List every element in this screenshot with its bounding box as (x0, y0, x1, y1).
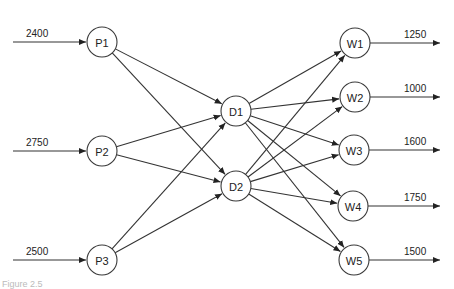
node-w2: W2 (340, 82, 370, 112)
demand-label-w1: 1250 (404, 29, 427, 40)
node-label: W4 (345, 201, 362, 213)
node-label: W2 (347, 92, 364, 104)
edge-p2-d2 (117, 155, 221, 182)
supply-label-p3: 2500 (26, 246, 49, 257)
node-w1: W1 (340, 28, 370, 58)
nodes: P1P2P3D1D2W1W2W3W4W5 (87, 27, 370, 275)
supply-label-p2: 2750 (26, 137, 49, 148)
demand-label-w5: 1500 (404, 246, 427, 257)
supply-demand-arrows: 24002750250012501000160017501500 (13, 28, 440, 260)
edge-d1-w2 (251, 99, 339, 109)
node-label: P2 (95, 146, 108, 158)
node-label: W3 (346, 145, 363, 157)
node-label: D2 (229, 181, 243, 193)
node-label: P1 (95, 37, 108, 49)
edge-p1-d1 (115, 49, 221, 104)
node-p2: P2 (87, 136, 117, 166)
node-d2: D2 (221, 171, 251, 201)
node-label: W1 (347, 38, 364, 50)
edge-p3-d1 (112, 123, 225, 249)
node-w3: W3 (339, 135, 369, 165)
node-d1: D1 (221, 96, 251, 126)
node-p1: P1 (87, 27, 117, 57)
edge-d1-w1 (249, 51, 341, 104)
edge-p3-d2 (115, 194, 222, 253)
demand-label-w4: 1750 (404, 192, 427, 203)
node-w4: W4 (338, 191, 368, 221)
edge-d1-w3 (250, 116, 339, 145)
edges (112, 49, 345, 253)
edge-p1-d2 (112, 53, 225, 174)
edge-d2-w4 (251, 189, 337, 204)
node-label: P3 (95, 255, 108, 267)
demand-label-w3: 1600 (404, 136, 427, 147)
edge-d2-w5 (249, 194, 341, 252)
edge-d2-w1 (246, 55, 345, 174)
node-w5: W5 (339, 245, 369, 275)
node-label: D1 (229, 106, 243, 118)
figure-caption: Figure 2.5 (2, 279, 43, 289)
edge-p2-d1 (116, 116, 220, 147)
demand-label-w2: 1000 (404, 83, 427, 94)
node-label: W5 (346, 255, 363, 267)
supply-label-p1: 2400 (26, 28, 49, 39)
node-p3: P3 (87, 245, 117, 275)
